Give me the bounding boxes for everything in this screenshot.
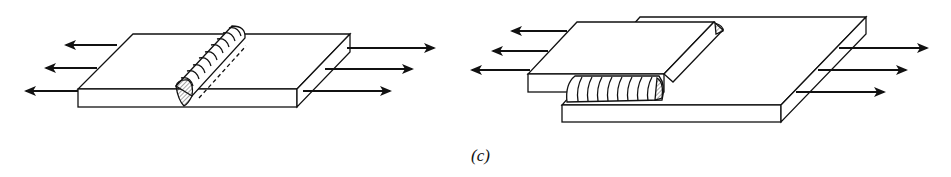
panel-butt-weld: [26, 26, 434, 107]
figure-caption: (c): [471, 146, 490, 166]
panel-lap-joint: [472, 17, 927, 122]
